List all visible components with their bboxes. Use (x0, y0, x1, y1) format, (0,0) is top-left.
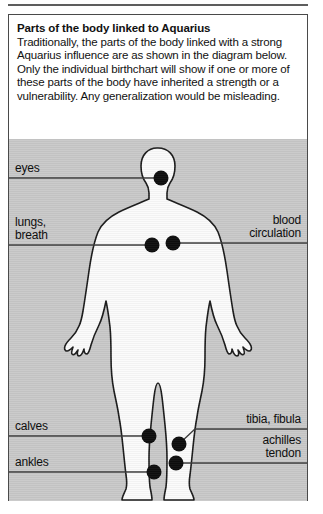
intro-text-block: Parts of the body linked to Aquarius Tra… (9, 15, 307, 108)
label-ankles: ankles (15, 456, 49, 469)
human-silhouette-shape (65, 148, 252, 500)
intro-paragraph: Traditionally, the parts of the body lin… (17, 36, 299, 103)
aquarius-body-panel: Parts of the body linked to Aquarius Tra… (8, 14, 308, 501)
marker-dot-blood-circulation (166, 236, 181, 251)
top-divider-rule (8, 4, 308, 6)
panel-title: Parts of the body linked to Aquarius (17, 21, 299, 35)
label-lungs-breath: lungs, breath (15, 216, 48, 242)
label-eyes: eyes (15, 162, 40, 175)
marker-dot-tibia-fibula (172, 437, 187, 452)
marker-dot-calves (142, 429, 157, 444)
label-achilles-tendon: achilles tendon (263, 434, 301, 460)
body-diagram-region: eyes lungs, breath blood circulation cal… (9, 139, 307, 501)
label-calves: calves (15, 420, 48, 433)
marker-dot-lungs-breath (145, 238, 160, 253)
marker-dot-ankles (147, 465, 162, 480)
marker-dot-eyes (154, 171, 169, 186)
label-blood-circulation: blood circulation (249, 214, 301, 240)
marker-dot-achilles-tendon (169, 456, 184, 471)
label-tibia-fibula: tibia, fibula (246, 413, 301, 426)
